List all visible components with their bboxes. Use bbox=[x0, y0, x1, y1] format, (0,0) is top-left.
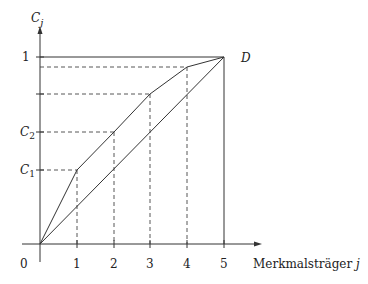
point-d-label: D bbox=[240, 51, 251, 65]
y-axis-label: Cj bbox=[31, 11, 43, 28]
y-label-c2: C2 bbox=[20, 125, 35, 141]
concentration-chart: Cj 1 C2 C1 0 1 2 3 4 5 Merkmalsträger j … bbox=[0, 0, 368, 284]
y-label-1: 1 bbox=[22, 50, 30, 64]
x-axis-arrow-icon bbox=[254, 242, 262, 247]
x-axis-label: Merkmalsträger j bbox=[253, 257, 360, 271]
x-label-2: 2 bbox=[110, 257, 118, 271]
x-label-1: 1 bbox=[73, 257, 81, 271]
x-label-0: 0 bbox=[20, 257, 28, 271]
y-label-c1: C1 bbox=[20, 163, 35, 179]
x-label-5: 5 bbox=[220, 257, 228, 271]
x-label-4: 4 bbox=[183, 257, 191, 271]
x-label-3: 3 bbox=[146, 257, 154, 271]
diagonal-line bbox=[40, 57, 224, 244]
